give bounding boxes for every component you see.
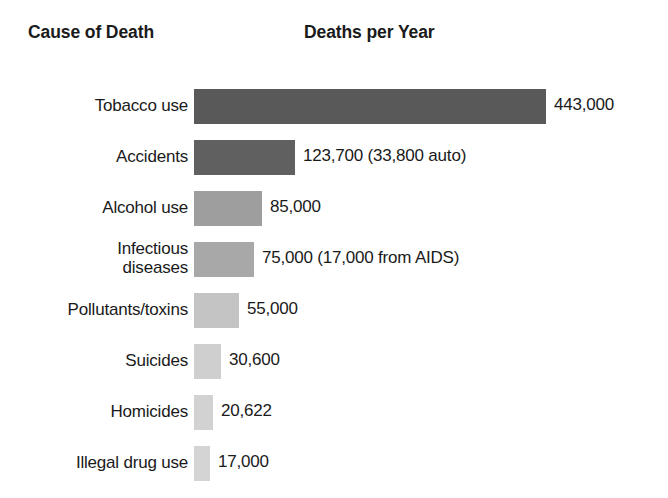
bar-category-label-line: Tobacco use (0, 96, 188, 115)
bar (194, 242, 254, 277)
bar-category-label: Alcohol use (0, 198, 188, 217)
bar-row: Accidents123,700 (33,800 auto) (0, 132, 668, 183)
bar (194, 89, 546, 124)
bar-row: Alcohol use85,000 (0, 183, 668, 234)
bar-row: Illegal drug use17,000 (0, 438, 668, 489)
bar-value-label: 443,000 (554, 95, 614, 114)
bar-chart-figure: Cause of Death Deaths per Year Tobacco u… (0, 0, 668, 498)
bar-row: Infectiousdiseases75,000 (17,000 from AI… (0, 234, 668, 285)
bar-category-label-line: Infectious (0, 239, 188, 258)
bar (194, 395, 213, 430)
bar-category-label: Illegal drug use (0, 453, 188, 472)
bar-category-label-line: Homicides (0, 402, 188, 421)
bar-value-label: 75,000 (17,000 from AIDS) (262, 248, 459, 267)
bar-category-label-line: Alcohol use (0, 198, 188, 217)
bar-track (194, 191, 614, 226)
bar-value-label: 55,000 (247, 299, 298, 318)
bar (194, 191, 262, 226)
bar-category-label: Tobacco use (0, 96, 188, 115)
bar-category-label-line: Pollutants/toxins (0, 300, 188, 319)
bar-category-label-line: Accidents (0, 147, 188, 166)
bar (194, 293, 239, 328)
bar-category-label-line: diseases (0, 258, 188, 277)
bar (194, 140, 295, 175)
bar-row: Pollutants/toxins55,000 (0, 285, 668, 336)
bar (194, 344, 221, 379)
bar-row: Tobacco use443,000 (0, 81, 668, 132)
bar-category-label-line: Suicides (0, 351, 188, 370)
bar (194, 446, 210, 481)
bar-value-label: 17,000 (218, 452, 269, 471)
bar-category-label: Accidents (0, 147, 188, 166)
bar-row: Suicides30,600 (0, 336, 668, 387)
bar-track (194, 89, 614, 124)
bar-row: Homicides20,622 (0, 387, 668, 438)
bar-value-label: 123,700 (33,800 auto) (303, 146, 466, 165)
chart-plot-area: Tobacco use443,000Accidents123,700 (33,8… (0, 0, 668, 498)
bar-category-label-line: Illegal drug use (0, 453, 188, 472)
bar-category-label: Homicides (0, 402, 188, 421)
bar-category-label: Infectiousdiseases (0, 239, 188, 277)
bar-value-label: 30,600 (229, 350, 280, 369)
bar-value-label: 20,622 (221, 401, 272, 420)
bar-category-label: Suicides (0, 351, 188, 370)
bar-value-label: 85,000 (270, 197, 321, 216)
bar-category-label: Pollutants/toxins (0, 300, 188, 319)
